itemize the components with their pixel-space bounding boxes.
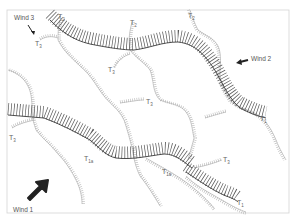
- wind-1-label: Wind 1: [13, 206, 34, 213]
- wind-1-arrow-icon: [28, 180, 48, 200]
- ridge-label-t1: T1: [237, 199, 244, 208]
- crest-t1-lower: [8, 109, 192, 168]
- crest-t1-bottom-right: [186, 167, 238, 203]
- crest-t2-right: [189, 10, 287, 160]
- ridge-label-t1a: T1a: [162, 168, 172, 177]
- crest-t3-left: [12, 119, 34, 128]
- secondary-crests: [8, 10, 286, 214]
- ridge-label-t1: T1: [260, 115, 267, 124]
- crest-t3-mid-lower: [120, 99, 144, 103]
- diagram-canvas: Wind 1 Wind 2 Wind 3 T2 T2 T2 T3 T3 T3 T…: [0, 0, 294, 219]
- crest-t3-right: [205, 111, 226, 118]
- wind-2-arrow-icon: [236, 59, 248, 65]
- ridge-label-t3: T3: [9, 134, 16, 143]
- crest-t3-bottom-right: [194, 159, 222, 168]
- ridge-label-t3: T3: [146, 98, 153, 107]
- wind-3-arrow-icon: [28, 25, 35, 35]
- ridge-label-t3: T3: [35, 40, 42, 49]
- crest-t2-mid: [129, 22, 195, 160]
- wind-2-label: Wind 2: [251, 55, 272, 62]
- crest-t3-mid-upper: [114, 53, 130, 68]
- dune-crest-diagram: Wind 1 Wind 2 Wind 3 T2 T2 T2 T3 T3 T3 T…: [0, 0, 294, 219]
- wind-3-label: Wind 3: [14, 14, 35, 21]
- ridge-label-t2: T2: [188, 12, 195, 21]
- crest-t3-top-left: [40, 35, 58, 40]
- ridge-label-t1a: T1a: [84, 155, 94, 164]
- ridge-label-t3: T3: [223, 156, 230, 165]
- ridge-label-t2: T2: [58, 13, 65, 22]
- primary-crests: [8, 14, 266, 202]
